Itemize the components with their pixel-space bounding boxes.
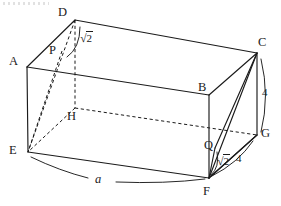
prism-hidden-edges: [28, 20, 257, 152]
radicand-value-bottom: 2: [223, 154, 230, 167]
measure-label-4-right: 4: [262, 87, 268, 98]
vertex-label-D: D: [58, 6, 67, 19]
edge-A-E: [27, 67, 28, 152]
vertex-label-H: H: [67, 110, 76, 123]
vertex-label-B: B: [198, 81, 206, 94]
edge-D-C: [75, 20, 257, 53]
segment-C-Q: [215, 53, 257, 148]
edge-B-A: [27, 67, 209, 95]
measure-label-sqrt2-bottom: √2: [216, 156, 230, 168]
segment-D-E: [28, 20, 75, 152]
edge-E-F: [28, 152, 209, 178]
figure-canvas: [0, 0, 281, 206]
arc-a-right: [116, 179, 205, 183]
vertex-label-C: C: [258, 36, 266, 49]
vertex-label-F: F: [203, 185, 210, 198]
vertex-label-E: E: [9, 144, 17, 157]
measure-label-sqrt2-top: √2: [79, 33, 93, 45]
point-label-Q: Q: [204, 139, 213, 152]
point-label-P: P: [49, 44, 56, 57]
edge-C-B: [209, 53, 257, 95]
vertex-label-G: G: [261, 127, 270, 140]
diagonal-dashed-DE: [28, 20, 75, 152]
vertex-label-A: A: [9, 55, 18, 68]
geometry-figure: D C A B H G E F P Q √2 4 √2 4 a: [0, 0, 281, 206]
edge-H-G: [75, 108, 257, 135]
measure-label-4-bottom: 4: [236, 153, 242, 164]
arc-a-left: [31, 157, 88, 178]
measure-label-a-bottom: a: [95, 173, 101, 186]
radicand-value-top: 2: [86, 31, 93, 44]
